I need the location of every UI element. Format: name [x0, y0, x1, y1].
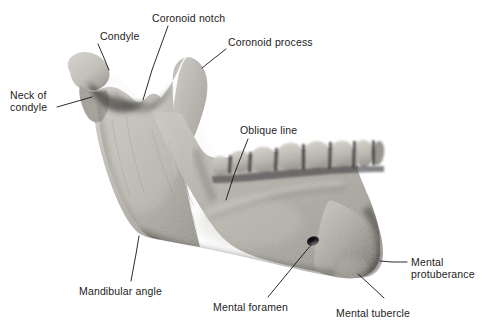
leader-coronoid-process [202, 49, 226, 68]
label-neck-of-condyle: Neck of condyle [10, 89, 47, 114]
label-coronoid-process: Coronoid process [228, 36, 313, 48]
leader-mental-protuberance [380, 261, 407, 262]
leader-mental-tubercle [358, 274, 384, 298]
leader-coronoid-notch [143, 26, 168, 100]
tooth [374, 141, 384, 165]
label-condyle: Condyle [100, 30, 140, 42]
label-coronoid-notch: Coronoid notch [152, 12, 225, 24]
label-oblique-line: Oblique line [240, 124, 297, 136]
leader-mandibular-angle [131, 236, 139, 281]
label-mental-foramen: Mental foramen [213, 301, 288, 313]
label-mandibular-angle: Mandibular angle [79, 285, 162, 297]
label-mental-tubercle: Mental tubercle [336, 307, 410, 319]
label-mental-protuberance: Mental protuberance [411, 256, 475, 281]
